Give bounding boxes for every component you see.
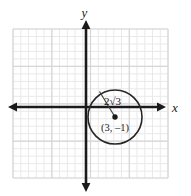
y-axis-top-arrow-icon [82,20,91,29]
y-axis-bottom-arrow-icon [82,183,91,192]
coordinate-plane-figure: y x 2√3 (3, –1) [0,0,191,196]
grid [13,29,168,178]
center-dot [112,114,117,119]
y-axis-label: y [80,5,88,20]
x-axis-label: x [171,100,178,115]
center-coordinate-label: (3, –1) [101,122,129,134]
radius-label: 2√3 [104,95,122,107]
